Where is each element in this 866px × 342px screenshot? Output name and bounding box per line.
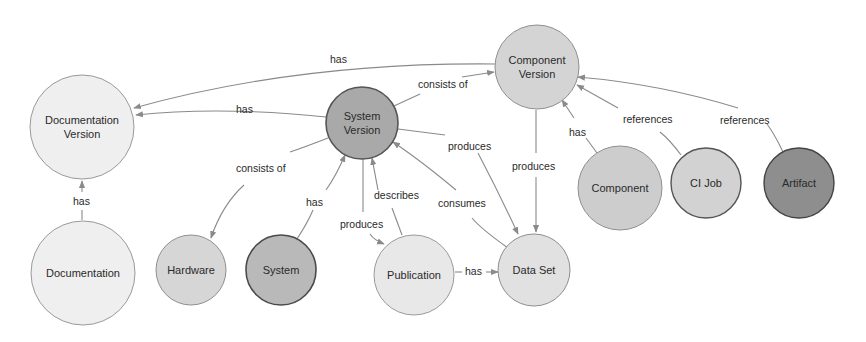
node-label: Version (519, 68, 556, 80)
edge-line (578, 77, 738, 108)
edge-label: has (330, 53, 347, 65)
node-label: CI Job (690, 177, 722, 189)
edge-line (660, 132, 681, 155)
node-label: Version (64, 128, 101, 140)
edge-label: has (569, 126, 586, 138)
node-label: System (263, 264, 300, 276)
node-component-version[interactable]: ComponentVersion (495, 25, 579, 109)
edge-label: has (236, 103, 253, 115)
edge-label: consumes (438, 197, 486, 209)
edge-line (577, 85, 618, 108)
edge-line (472, 218, 508, 248)
node-circle[interactable] (30, 75, 134, 179)
edge-label: has (73, 195, 90, 207)
edge-system-version-to-publication: produces (340, 159, 384, 244)
edge-line (136, 111, 326, 117)
node-label: Data Set (513, 264, 556, 276)
edge-system-version-to-data-set: produces (398, 129, 518, 234)
edge-label: consists of (418, 78, 468, 90)
node-publication[interactable]: Publication (374, 235, 454, 315)
relationship-diagram: hashasconsists ofproducesproducesconsume… (0, 0, 866, 342)
node-artifact[interactable]: Artifact (764, 148, 834, 218)
edge-line (392, 208, 402, 235)
edge-label: produces (448, 140, 491, 152)
node-label: Artifact (782, 177, 816, 189)
edge-label: describes (374, 189, 419, 201)
node-documentation[interactable]: Documentation (31, 221, 135, 325)
edge-line (586, 138, 597, 153)
node-system-version[interactable]: SystemVersion (326, 87, 398, 159)
edge-line (297, 210, 313, 239)
node-label: System (344, 110, 381, 122)
edge-artifact-to-component-version: references (578, 77, 783, 152)
node-label: Component (592, 182, 649, 194)
edge-system-version-to-documentation-version: has (136, 103, 326, 117)
edge-label: references (623, 113, 673, 125)
node-component[interactable]: Component (578, 146, 662, 230)
node-label: Documentation (45, 114, 119, 126)
node-label: Version (344, 124, 381, 136)
node-ci-job[interactable]: CI Job (671, 148, 741, 218)
edge-line (372, 158, 378, 190)
edge-system-version-to-hardware: consists of (211, 138, 328, 238)
node-label: Publication (387, 269, 441, 281)
edge-line (398, 129, 445, 135)
node-label: Documentation (46, 267, 120, 279)
edge-line (290, 138, 328, 152)
edge-line (462, 72, 494, 77)
edge-system-version-to-component-version: consists of (394, 72, 494, 106)
node-label: Hardware (167, 264, 215, 276)
node-label: Component (509, 54, 566, 66)
nodes-layer: DocumentationVersionComponentVersionSyst… (30, 25, 834, 325)
edge-component-to-component-version: has (562, 100, 597, 153)
edge-component-version-to-data-set: produces (512, 110, 555, 232)
node-circle[interactable] (326, 87, 398, 159)
edge-label: has (306, 196, 323, 208)
edge-line (767, 124, 783, 152)
node-system[interactable]: System (246, 235, 316, 305)
node-documentation-version[interactable]: DocumentationVersion (30, 75, 134, 179)
edge-publication-to-data-set: has (455, 265, 498, 277)
edge-label: produces (340, 218, 383, 230)
edge-documentation-to-documentation-version: has (73, 181, 90, 220)
edge-system-to-system-version: has (297, 155, 345, 239)
edge-line (211, 185, 244, 238)
edge-ci-job-to-component-version: references (577, 85, 681, 155)
node-circle[interactable] (495, 25, 579, 109)
edge-label: produces (512, 160, 555, 172)
edge-line (394, 94, 420, 106)
edge-line (393, 142, 456, 190)
edge-line (326, 155, 345, 190)
edge-line (370, 234, 384, 244)
node-hardware[interactable]: Hardware (156, 235, 226, 305)
edge-label: consists of (236, 162, 286, 174)
edge-label: has (465, 265, 482, 277)
edge-label: references (720, 114, 770, 126)
edge-line (562, 100, 574, 118)
node-data-set[interactable]: Data Set (498, 234, 570, 306)
